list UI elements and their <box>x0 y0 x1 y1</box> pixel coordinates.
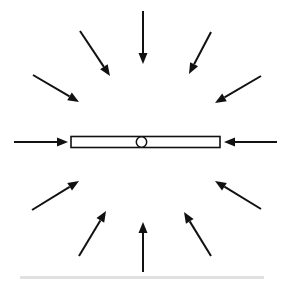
figure-canvas <box>0 0 283 282</box>
center-pivot-circle <box>136 137 146 147</box>
scan-artifact <box>20 276 264 279</box>
force-diagram <box>0 0 283 282</box>
